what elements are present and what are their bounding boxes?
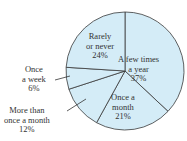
- label-once-a-week: Oncea week6%: [22, 65, 46, 94]
- label-few-times-year: A few timesa year37%: [118, 55, 159, 84]
- label-rarely-or-never: Rarelyor never24%: [86, 32, 114, 61]
- label-once-a-month: Once amonth21%: [111, 93, 135, 122]
- label-more-than-once-month: More thanonce a month12%: [4, 106, 50, 135]
